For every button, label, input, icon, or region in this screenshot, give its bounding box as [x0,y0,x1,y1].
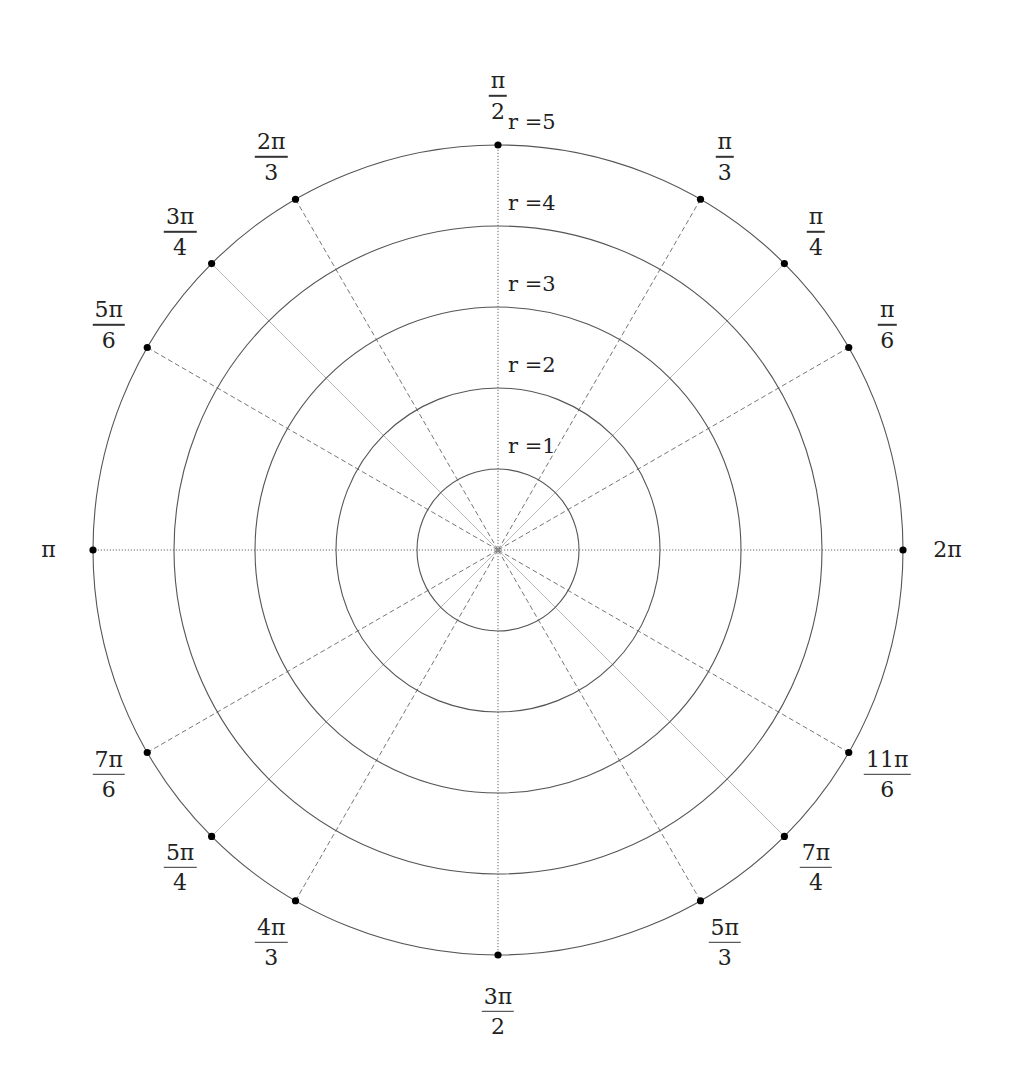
angle-dot-240 [292,897,299,904]
angle-label-numerator: π [489,70,507,95]
angle-label-denominator: 3 [716,157,734,183]
angle-dot-180 [89,546,96,553]
angle-dot-0 [899,546,906,553]
angle-label-denominator: 4 [171,232,189,258]
angle-label-numerator: 2π [255,131,287,156]
angle-label-denominator: 2 [489,1012,507,1038]
angle-label-denominator: 6 [878,775,896,801]
angle-label-150: 5π6 [92,299,124,351]
angle-dot-60 [697,196,704,203]
angle-dot-300 [697,897,704,904]
angle-label-denominator: 4 [171,868,189,894]
angle-label-135: 3π4 [164,206,196,258]
angle-label-denominator: 6 [100,325,118,351]
spoke-135 [212,264,498,550]
angle-label-330: 11π6 [864,749,910,801]
angle-label-denominator: 4 [807,232,825,258]
angle-label-240: 4π3 [255,917,287,969]
angle-label-180: π [41,539,55,561]
angle-label-text: π [41,537,55,562]
spoke-210 [147,550,498,753]
angle-label-denominator: 3 [262,157,280,183]
angle-label-210: 7π6 [92,749,124,801]
angle-label-45: π4 [807,206,825,258]
spoke-150 [147,348,498,551]
spoke-240 [296,550,499,901]
angle-dot-330 [845,749,852,756]
angle-label-225: 5π4 [164,842,196,894]
angle-label-numerator: 5π [709,917,741,942]
angle-label-numerator: 5π [92,299,124,324]
angle-dot-120 [292,196,299,203]
angle-label-numerator: 3π [164,206,196,231]
angle-label-denominator: 3 [716,943,734,969]
angle-dot-225 [208,833,215,840]
angle-label-numerator: 4π [255,917,287,942]
angle-label-numerator: 7π [92,749,124,774]
angle-label-denominator: 6 [878,325,896,351]
radius-label-r4: r =4 [508,191,556,215]
angle-label-numerator: 11π [864,749,910,774]
spoke-225 [212,550,498,836]
spoke-300 [498,550,701,901]
angle-label-text: 2π [933,537,961,562]
angle-dot-270 [494,951,501,958]
angle-dot-90 [494,141,501,148]
angle-label-0: 2π [933,539,961,561]
angle-label-270: 3π2 [482,985,514,1037]
angle-label-120: 2π3 [255,131,287,183]
angle-dot-135 [208,260,215,267]
angle-label-numerator: 7π [800,842,832,867]
angle-label-numerator: π [807,206,825,231]
angle-label-numerator: 5π [164,842,196,867]
angle-label-denominator: 6 [100,775,118,801]
angle-label-90: π2 [489,70,507,122]
radius-label-r2: r =2 [508,353,556,377]
angle-label-30: π6 [878,299,896,351]
angle-label-numerator: 3π [482,985,514,1010]
angle-label-60: π3 [716,131,734,183]
angle-label-denominator: 4 [807,868,825,894]
polar-grid [0,0,1009,1082]
angle-dot-30 [845,344,852,351]
radius-label-r3: r =3 [508,272,556,296]
origin-dot [496,548,501,553]
spoke-330 [498,550,849,753]
angle-label-300: 5π3 [709,917,741,969]
angle-dot-150 [144,344,151,351]
angle-label-numerator: π [716,131,734,156]
angle-label-denominator: 2 [489,97,507,123]
spoke-45 [498,264,784,550]
angle-dot-210 [144,749,151,756]
radius-label-r1: r =1 [508,434,556,458]
angle-label-315: 7π4 [800,842,832,894]
angle-dot-315 [781,833,788,840]
angle-label-numerator: π [878,299,896,324]
spoke-315 [498,550,784,836]
angle-dot-45 [781,260,788,267]
angle-label-denominator: 3 [262,943,280,969]
radius-label-r5: r =5 [508,110,556,134]
spoke-120 [296,199,499,550]
